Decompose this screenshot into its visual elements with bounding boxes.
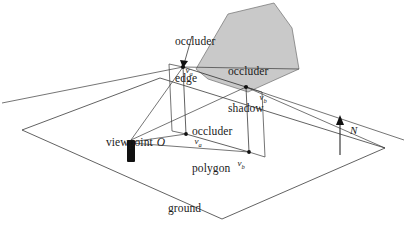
construction-line-right — [246, 87, 404, 140]
vertex-label-ground-b: vb — [228, 149, 245, 180]
vertex-marker-ground-b — [247, 150, 251, 154]
viewpoint-label-text: viewpoint — [106, 136, 153, 148]
vertex-label-ground-a-sub: a — [199, 140, 202, 147]
ground-plane-label-line1: ground — [168, 202, 201, 214]
vertex-label-edge-start: va — [176, 56, 193, 87]
occluder-polygon-label-line2: polygon — [192, 162, 232, 174]
normal-vector-label: N — [350, 125, 357, 137]
occluder-edge-label-line1: occluder — [175, 35, 215, 47]
normal-arrow-head — [336, 115, 344, 125]
viewpoint-symbol: O — [157, 136, 165, 148]
occluder-shadow-label-line1: occluder — [228, 65, 268, 77]
ground-plane-label: ground plane — [168, 178, 201, 231]
construction-line-left — [2, 67, 183, 103]
vertex-label-ground-b-sub: b — [242, 162, 245, 169]
viewpoint-label: viewpointO — [94, 124, 165, 161]
vertex-label-edge-end-sub: b — [264, 96, 267, 103]
occluder-shadow-diagram: occluder edge occluder shadow occluder p… — [0, 0, 406, 231]
occluder-slab-bottom-left — [172, 131, 186, 134]
vertex-label-edge-start-sub: a — [190, 69, 193, 76]
occluder-slab-bottom-right — [249, 152, 265, 157]
vertex-label-edge-end: vb — [250, 83, 267, 114]
vertex-label-ground-a: va — [185, 127, 202, 158]
